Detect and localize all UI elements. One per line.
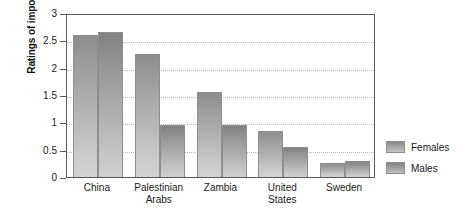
legend-label-males: Males bbox=[411, 163, 438, 174]
legend-swatch-females-icon bbox=[386, 141, 405, 153]
y-axis-tick-label: 3 bbox=[15, 9, 57, 19]
x-axis-label-sweden: Sweden bbox=[299, 182, 389, 194]
bar-males-zambia bbox=[222, 125, 247, 177]
bar-females-zambia bbox=[197, 92, 222, 177]
bar-chart: Ratings of importance 00.511.522.53 Chin… bbox=[0, 0, 471, 210]
y-axis-tick-label: 0 bbox=[15, 173, 57, 183]
legend-item-males[interactable]: Males bbox=[386, 159, 449, 177]
bar-males-china bbox=[98, 32, 123, 177]
bar-males-sweden bbox=[345, 161, 370, 177]
bar-females-united-states bbox=[258, 131, 283, 177]
y-axis-tick-label: 0.5 bbox=[15, 146, 57, 156]
y-axis-tick-label: 2 bbox=[15, 64, 57, 74]
y-axis-tick-label: 1.5 bbox=[15, 91, 57, 101]
bar-females-china bbox=[73, 35, 98, 177]
legend-item-females[interactable]: Females bbox=[386, 138, 449, 156]
legend: Females Males bbox=[386, 138, 449, 180]
plot-area bbox=[66, 14, 375, 178]
bar-females-sweden bbox=[320, 163, 345, 177]
y-axis-tick-label: 2.5 bbox=[15, 36, 57, 46]
y-axis-tick-label: 1 bbox=[15, 118, 57, 128]
legend-label-females: Females bbox=[411, 142, 449, 153]
bar-females-palestinian-arabs bbox=[135, 54, 160, 177]
bar-males-united-states bbox=[283, 147, 308, 177]
legend-swatch-males-icon bbox=[386, 162, 405, 174]
y-axis-tick bbox=[60, 178, 66, 179]
bar-males-palestinian-arabs bbox=[160, 125, 185, 177]
